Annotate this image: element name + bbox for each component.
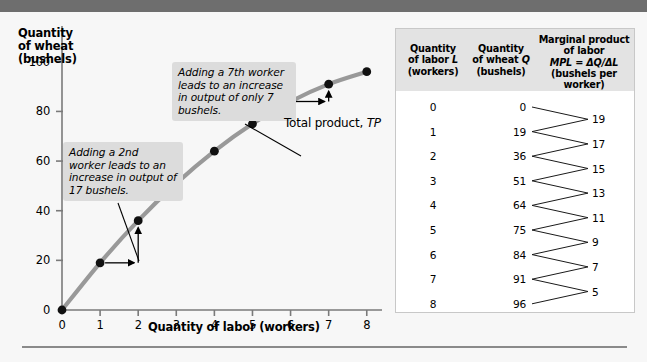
table-cell-labor: 8 [400, 298, 466, 310]
th-labor-symbol: L [452, 54, 458, 65]
chart-panel: Quantityof wheat(bushels) Quantity of la… [0, 14, 392, 344]
th-mpl-formula: = ΔQ/ΔL [572, 57, 618, 68]
mpl-connector-up [532, 169, 588, 181]
table-cell-labor: 2 [400, 150, 466, 162]
table-cell-mpl: 5 [592, 286, 632, 298]
data-point-marker [96, 258, 105, 267]
th-mpl-line1: Marginal product [539, 34, 630, 45]
x-tick-label: 3 [168, 318, 184, 332]
x-tick-label: 4 [206, 318, 222, 332]
th-wheat-line3: (bushels) [476, 66, 525, 77]
table-cell-mpl: 17 [592, 138, 632, 150]
mpl-connector-up [532, 193, 588, 205]
mpl-connector-up [532, 242, 588, 254]
data-point-marker [324, 80, 333, 89]
callout-2nd-worker: Adding a 2nd worker leads to an increase… [63, 142, 183, 201]
y-tick-label: 40 [20, 204, 50, 218]
x-tick-label: 2 [130, 318, 146, 332]
mpl-connector-up [532, 218, 588, 230]
mpl-connector-down [532, 181, 588, 193]
mpl-connector-up [532, 292, 588, 304]
y-axis-title-line-2: of wheat [18, 39, 73, 53]
table-cell-mpl: 15 [592, 163, 632, 175]
y-tick-label: 0 [20, 303, 50, 317]
y-tick-label: 80 [20, 104, 50, 118]
data-point-marker [210, 147, 219, 156]
y-tick-label: 20 [20, 253, 50, 267]
mpl-connector-down [532, 279, 588, 291]
th-mpl-line4: (bushels per worker) [551, 68, 617, 90]
table-cell-wheat: 75 [474, 224, 526, 236]
mpl-connector-up [532, 267, 588, 279]
table-cell-wheat: 64 [474, 199, 526, 211]
mpl-connector-down [532, 156, 588, 168]
table-cell-mpl: 7 [592, 261, 632, 273]
table-cell-labor: 1 [400, 126, 466, 138]
table-cell-wheat: 96 [474, 298, 526, 310]
mpl-connector-down [532, 132, 588, 144]
y-tick-label: 100 [20, 55, 50, 69]
data-table: Quantity of labor L (workers) Quantity o… [395, 28, 635, 313]
data-point-marker [134, 216, 143, 225]
mpl-connector-down [532, 230, 588, 242]
mpl-connector-up [532, 144, 588, 156]
x-tick-label: 5 [244, 318, 260, 332]
table-cell-wheat: 19 [474, 126, 526, 138]
mpl-connector-down [532, 255, 588, 267]
bottom-rule [22, 346, 627, 348]
mpl-connector-down [532, 107, 588, 119]
th-labor-line1: Quantity [410, 43, 456, 54]
tp-label-prefix: Total product, [284, 116, 367, 130]
th-wheat-symbol: Q [522, 54, 530, 65]
table-cell-mpl: 19 [592, 113, 632, 125]
table-cell-labor: 0 [400, 101, 466, 113]
th-mpl-line2: of labor [564, 45, 605, 56]
table-header-wheat: Quantity of wheat Q (bushels) [468, 43, 534, 77]
table-header-mpl: Marginal product of labor MPL = ΔQ/ΔL (b… [534, 34, 634, 90]
table-cell-labor: 7 [400, 273, 466, 285]
y-tick-label: 60 [20, 154, 50, 168]
table-cell-labor: 4 [400, 199, 466, 211]
table-cell-wheat: 0 [474, 101, 526, 113]
figure-container: Quantityof wheat(bushels) Quantity of la… [0, 0, 647, 362]
table-cell-mpl: 9 [592, 236, 632, 248]
th-labor-line3: (workers) [408, 66, 459, 77]
x-tick-label: 0 [54, 318, 70, 332]
data-point-marker [362, 67, 371, 76]
leader-line-2nd [118, 203, 139, 261]
callout-7th-worker: Adding a 7th worker leads to an increase… [172, 62, 296, 121]
table-cell-mpl: 11 [592, 212, 632, 224]
x-tick-label: 6 [283, 318, 299, 332]
tp-label-italic: TP [367, 116, 381, 130]
th-wheat-line2: of wheat [472, 54, 521, 65]
x-tick-label: 7 [321, 318, 337, 332]
table-cell-wheat: 84 [474, 249, 526, 261]
x-tick-label: 8 [359, 318, 375, 332]
table-cell-wheat: 51 [474, 175, 526, 187]
table-cell-labor: 5 [400, 224, 466, 236]
table-cell-labor: 3 [400, 175, 466, 187]
mpl-connector-down [532, 205, 588, 217]
table-header-labor: Quantity of labor L (workers) [400, 43, 466, 77]
th-wheat-line1: Quantity [478, 43, 524, 54]
total-product-label: Total product, TP [284, 116, 381, 130]
th-labor-line2: of labor [408, 54, 452, 65]
table-cell-wheat: 36 [474, 150, 526, 162]
mpl-connector-up [532, 119, 588, 131]
th-mpl-symbol: MPL [550, 57, 572, 68]
table-cell-wheat: 91 [474, 273, 526, 285]
x-tick-label: 1 [92, 318, 108, 332]
table-cell-mpl: 13 [592, 187, 632, 199]
y-axis-title-line-1: Quantity [18, 26, 73, 40]
table-cell-labor: 6 [400, 249, 466, 261]
top-banner [0, 0, 647, 12]
data-point-marker [58, 306, 67, 315]
